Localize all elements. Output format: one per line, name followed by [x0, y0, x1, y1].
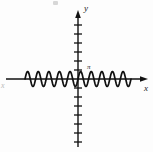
x-axis-label: x [144, 84, 148, 93]
x-axis-arrowhead [140, 76, 148, 82]
y-axis-arrowhead [75, 10, 81, 18]
y-axis-label: y [84, 4, 88, 13]
plot-canvas [0, 0, 153, 152]
pi-annotation-label: π [87, 64, 91, 71]
left-edge-label-fragment: x [1, 82, 5, 90]
math-graph-figure: y x π x [0, 0, 153, 152]
